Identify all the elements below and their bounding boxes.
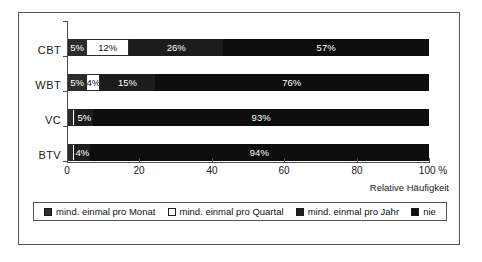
- bar-segment-monat: 5%: [68, 39, 86, 56]
- legend-item-label: mind. einmal pro Monat: [56, 206, 155, 217]
- x-axis-tick-label: 100 %: [419, 165, 447, 176]
- y-axis-tick: [63, 91, 67, 92]
- bar-segment-label: 15%: [118, 78, 137, 88]
- legend-swatch-icon: [411, 208, 419, 216]
- bar-segment-label: 26%: [167, 43, 186, 53]
- plot-area: CBT WBT VC BTV 5%12%26%57% 5%4%15%76% 5%…: [19, 13, 461, 178]
- legend-item-label: mind. einmal pro Jahr: [308, 206, 399, 217]
- legend-item-label: nie: [423, 206, 436, 217]
- legend-item-nie: nie: [411, 206, 436, 217]
- x-axis-line: [67, 162, 429, 163]
- y-axis-tick: [63, 21, 67, 22]
- bar-row: 5%4%15%76%: [68, 74, 429, 91]
- bar-segment-quartal: 4%: [86, 74, 100, 91]
- y-category-label-cbt: CBT: [19, 44, 61, 56]
- bar-segment-nie: 57%: [223, 39, 429, 56]
- chart-legend: mind. einmal pro Monat mind. einmal pro …: [33, 202, 447, 221]
- legend-item-monat: mind. einmal pro Monat: [44, 206, 155, 217]
- bar-segment-jahr: 4%: [75, 144, 89, 161]
- x-axis-tick: [357, 158, 358, 163]
- legend-swatch-icon: [44, 208, 52, 216]
- bar-segment-jahr: 5%: [75, 109, 93, 126]
- bar-segment-quartal: 12%: [86, 39, 129, 56]
- bar-segment-jahr: 26%: [129, 39, 223, 56]
- legend-item-quartal: mind. einmal pro Quartal: [168, 206, 284, 217]
- y-category-label-vc: VC: [19, 114, 61, 126]
- bar-segment-label: 5%: [70, 43, 84, 53]
- bar-segment-nie: 94%: [90, 144, 429, 161]
- x-axis-tick-label: 40: [206, 165, 217, 176]
- x-axis-tick: [284, 158, 285, 163]
- bar-segment-label: 4%: [86, 78, 100, 88]
- bar-segment-label: 94%: [250, 148, 269, 158]
- x-axis-tick-label: 20: [133, 165, 144, 176]
- bar-segment-nie: 76%: [155, 74, 429, 91]
- legend-item-label: mind. einmal pro Quartal: [180, 206, 284, 217]
- bar-segment-label: 76%: [282, 78, 301, 88]
- bar-row: 5%93%: [68, 109, 429, 126]
- bar-segment-label: 5%: [70, 78, 84, 88]
- bar-segment-label: 4%: [76, 148, 90, 158]
- x-axis-tick-label: 0: [64, 165, 70, 176]
- bar-row: 4%94%: [68, 144, 429, 161]
- bar-segment-monat: 5%: [68, 74, 86, 91]
- x-axis-tick: [429, 158, 430, 163]
- bar-row: 5%12%26%57%: [68, 39, 429, 56]
- x-axis-tick: [212, 158, 213, 163]
- legend-swatch-icon: [168, 208, 176, 216]
- legend-item-jahr: mind. einmal pro Jahr: [296, 206, 399, 217]
- legend-swatch-icon: [296, 208, 304, 216]
- bar-segment-label: 5%: [77, 113, 91, 123]
- chart-figure-frame: CBT WBT VC BTV 5%12%26%57% 5%4%15%76% 5%…: [18, 12, 460, 245]
- y-category-label-wbt: WBT: [19, 79, 61, 91]
- x-axis-tick: [139, 158, 140, 163]
- bar-segment-label: 12%: [98, 43, 117, 53]
- x-axis-tick-label: 80: [351, 165, 362, 176]
- bar-segment-label: 93%: [252, 113, 271, 123]
- bar-segment-label: 57%: [317, 43, 336, 53]
- y-axis-tick: [63, 56, 67, 57]
- x-axis-tick-label: 60: [278, 165, 289, 176]
- bar-segment-nie: 93%: [93, 109, 429, 126]
- y-axis-tick: [63, 126, 67, 127]
- bar-segment-jahr: 15%: [100, 74, 154, 91]
- x-axis-tick: [67, 158, 68, 163]
- x-axis-title: Relative Häufigkeit: [370, 182, 449, 193]
- y-category-label-btv: BTV: [19, 149, 61, 161]
